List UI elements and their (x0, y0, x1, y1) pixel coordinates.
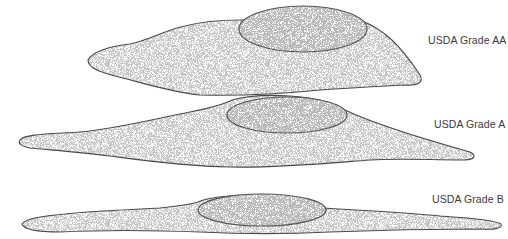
egg-grade-a (19, 95, 474, 167)
egg-grade-b (22, 194, 501, 234)
egg-grade-aa (88, 6, 421, 95)
label-grade-b: USDA Grade B (432, 193, 504, 205)
label-grade-aa: USDA Grade AA (428, 34, 506, 46)
label-grade-a: USDA Grade A (434, 118, 505, 130)
